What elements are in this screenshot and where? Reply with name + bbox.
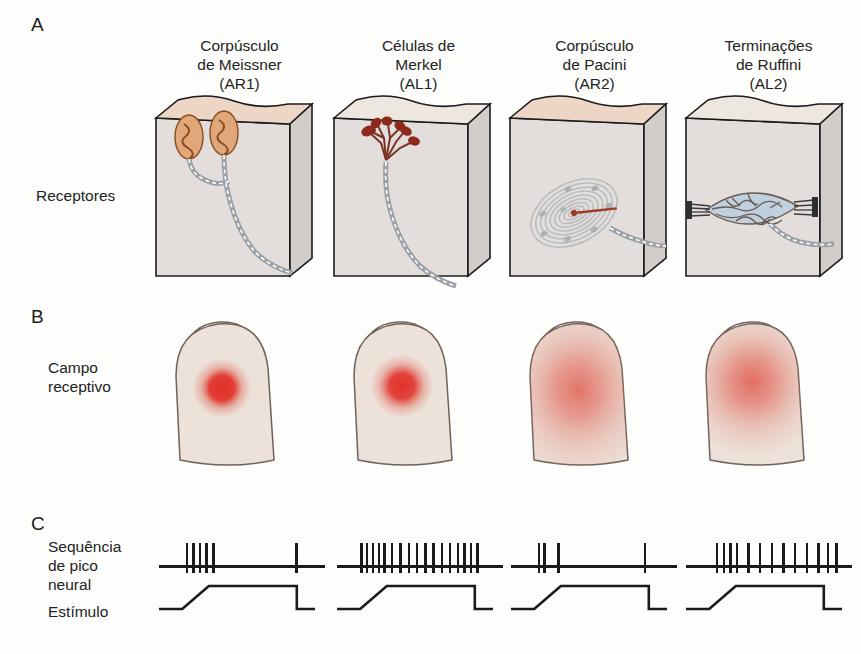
row-label-receptive-field: Campo receptivo xyxy=(48,358,148,396)
spike xyxy=(360,543,362,573)
spike xyxy=(457,543,459,573)
stimulus-trace-ruffini xyxy=(682,576,858,618)
column-header-merkel: Células de Merkel (AL1) xyxy=(331,17,506,93)
spike xyxy=(817,543,819,573)
spike xyxy=(408,543,410,573)
stimulus-svg xyxy=(155,576,331,618)
spike xyxy=(205,543,207,573)
spike xyxy=(716,543,718,573)
spike xyxy=(759,543,761,573)
stimulus-trace-pacini xyxy=(507,576,683,618)
column-title-meissner: Corpúsculo de Meissner xyxy=(197,37,281,73)
spike xyxy=(827,543,829,573)
trace-cell-ruffini xyxy=(682,528,858,618)
receptive-field-spot xyxy=(504,310,656,470)
receptive-field-merkel xyxy=(328,310,504,470)
spike xyxy=(399,543,401,573)
receptive-field-spot xyxy=(370,354,434,418)
receptive-field-meissner xyxy=(150,310,326,470)
spike xyxy=(432,543,434,573)
column-header-meissner: Corpúsculo de Meissner (AR1) xyxy=(152,17,327,93)
spike xyxy=(729,543,731,573)
spike xyxy=(794,543,796,573)
column-title-ruffini: Terminações de Ruffini xyxy=(725,37,813,73)
spike-train-merkel xyxy=(333,528,509,576)
spike xyxy=(644,543,646,573)
spike-train-ruffini xyxy=(682,528,858,576)
spike xyxy=(476,543,478,573)
skin-block-ruffini xyxy=(678,88,854,288)
spike xyxy=(538,543,540,573)
column-header-pacini: Corpúsculo de Pacini (AR2) xyxy=(507,17,682,93)
column-header-ruffini: Terminações de Ruffini (AL2) xyxy=(681,17,856,93)
spike xyxy=(463,543,465,573)
spike xyxy=(366,543,368,573)
spike xyxy=(199,543,201,573)
stimulus-trace-meissner xyxy=(155,576,331,618)
stimulus-svg xyxy=(682,576,858,618)
skin-block-merkel xyxy=(326,88,502,288)
spike xyxy=(543,543,545,573)
trace-cell-pacini xyxy=(507,528,683,618)
spike-train-meissner xyxy=(155,528,331,576)
row-label-receptors: Receptores xyxy=(36,186,146,205)
spike xyxy=(441,543,443,573)
spike xyxy=(470,543,472,573)
trace-cell-merkel xyxy=(333,528,509,618)
spike xyxy=(372,543,374,573)
spike-baseline xyxy=(511,565,677,568)
column-title-pacini: Corpúsculo de Pacini xyxy=(555,37,633,73)
skin-block-pacini xyxy=(502,88,678,288)
panel-letter-b: B xyxy=(31,306,44,328)
spike xyxy=(424,543,426,573)
stimulus-trace-merkel xyxy=(333,576,509,618)
spike xyxy=(723,543,725,573)
spike-baseline xyxy=(159,565,325,568)
skin-block-shape-merkel xyxy=(334,96,490,276)
spike xyxy=(806,543,808,573)
skin-block-shape-ruffini xyxy=(686,96,842,276)
spike xyxy=(771,543,773,573)
figure-root: A B C Receptores Campo receptivo Sequênc… xyxy=(0,0,861,654)
receptive-field-spot xyxy=(192,358,252,418)
spike xyxy=(192,543,194,573)
spike xyxy=(736,543,738,573)
spike xyxy=(747,543,749,573)
receptive-field-ruffini xyxy=(680,310,856,470)
stimulus-svg xyxy=(507,576,683,618)
skin-block-meissner xyxy=(148,88,324,288)
spike-train-pacini xyxy=(507,528,683,576)
trace-cell-meissner xyxy=(155,528,331,618)
spike xyxy=(391,543,393,573)
row-label-spike-train: Sequência de pico neural xyxy=(48,537,158,594)
spike xyxy=(835,543,837,573)
spike xyxy=(449,543,451,573)
spike xyxy=(295,543,297,573)
spike xyxy=(378,543,380,573)
panel-letter-a: A xyxy=(31,14,44,36)
skin-block-shape-pacini xyxy=(510,96,666,276)
row-label-stimulus: Estímulo xyxy=(48,602,158,621)
spike xyxy=(212,543,214,573)
receptive-field-pacini xyxy=(504,310,680,470)
spike xyxy=(782,543,784,573)
spike xyxy=(383,543,385,573)
stimulus-svg xyxy=(333,576,509,618)
spike xyxy=(557,543,559,573)
spike xyxy=(186,543,188,573)
spike xyxy=(416,543,418,573)
panel-letter-c: C xyxy=(31,513,45,535)
column-title-merkel: Células de Merkel xyxy=(382,37,455,73)
